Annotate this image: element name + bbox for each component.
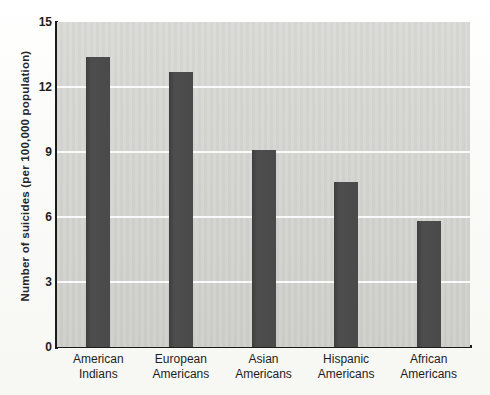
bar[interactable] [334, 182, 358, 347]
bar[interactable] [252, 150, 276, 347]
plot-area [57, 22, 470, 347]
chart-page: Number of suicides (per 100,000 populati… [0, 0, 490, 395]
bar[interactable] [86, 57, 110, 347]
bar[interactable] [169, 72, 193, 347]
gridline [57, 86, 470, 88]
y-tick-label: 12 [26, 81, 52, 93]
x-category-label-line: African [374, 352, 484, 367]
y-tick-label: 15 [26, 16, 52, 28]
bar[interactable] [417, 221, 441, 347]
x-category-label: AfricanAmericans [374, 352, 484, 383]
y-tick-label: 3 [26, 276, 52, 288]
y-tick-label: 6 [26, 211, 52, 223]
x-category-label-line: Americans [374, 367, 484, 382]
y-tick-label: 9 [26, 146, 52, 158]
y-axis-title: Number of suicides (per 100,000 populati… [19, 16, 31, 336]
